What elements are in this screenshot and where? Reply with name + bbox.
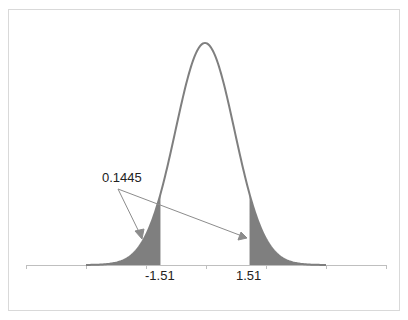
annotation-arrows: [118, 189, 247, 240]
normal-curve-chart: [0, 0, 408, 320]
normal-curve: [86, 43, 326, 265]
tick-label-left-critical: -1.51: [145, 268, 175, 283]
x-axis: [26, 265, 387, 269]
annotation-label: 0.1445: [102, 170, 142, 185]
tick-label-right-critical: 1.51: [236, 268, 261, 283]
